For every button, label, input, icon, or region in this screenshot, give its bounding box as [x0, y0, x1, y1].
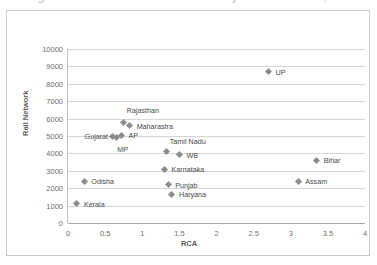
data-point-label: Karnataka — [172, 165, 205, 174]
gridline — [68, 153, 365, 154]
y-tick-label: 10000 — [42, 45, 63, 54]
x-tick-label: 1 — [140, 229, 144, 238]
data-point-label: Tamil Nadu — [170, 136, 206, 145]
data-point-label: Rajasthan — [127, 106, 159, 115]
x-tick-label: 4 — [363, 229, 367, 238]
y-tick-label: 6000 — [46, 114, 63, 123]
data-point-marker[interactable] — [126, 122, 133, 129]
data-point-marker[interactable] — [295, 178, 302, 185]
x-axis-title: RCA — [7, 239, 371, 248]
data-point-label: Kerala — [84, 199, 105, 208]
x-tick-label: 0 — [66, 229, 70, 238]
x-tick-label: 2 — [214, 229, 218, 238]
data-point-label: Maharastra — [137, 121, 173, 130]
data-point-marker[interactable] — [176, 151, 183, 158]
gridline — [68, 101, 365, 102]
gridline — [68, 206, 365, 207]
data-point-label: Odisha — [91, 177, 114, 186]
figure-caption-strip: Figure 4: Rail Network vs RCA of major I… — [0, 0, 377, 9]
data-point-label: MP — [117, 144, 128, 153]
y-tick-label: 8000 — [46, 79, 63, 88]
data-point-marker[interactable] — [165, 181, 172, 188]
gridline — [68, 84, 365, 85]
data-point-label: Assam — [305, 177, 327, 186]
gridline — [68, 223, 365, 224]
y-tick-label: 5000 — [46, 132, 63, 141]
y-tick-label: 1000 — [46, 201, 63, 210]
data-point-label: Punjab — [175, 180, 197, 189]
data-point-marker[interactable] — [265, 68, 272, 75]
data-point-marker[interactable] — [113, 134, 120, 141]
gridline — [68, 49, 365, 50]
data-point-label: Gujarat — [85, 132, 109, 141]
x-tick-label: 2.5 — [248, 229, 258, 238]
y-tick-label: 4000 — [46, 149, 63, 158]
figure-caption: Figure 4: Rail Network vs RCA of major I… — [28, 0, 377, 3]
y-tick-label: 0 — [59, 219, 63, 228]
data-point-marker[interactable] — [81, 178, 88, 185]
gridline — [68, 188, 365, 189]
data-point-label: Bihar — [324, 156, 341, 165]
y-tick-label: 3000 — [46, 166, 63, 175]
gridline — [68, 66, 365, 67]
data-point-marker[interactable] — [168, 191, 175, 198]
data-point-label: Haryana — [179, 190, 206, 199]
y-tick-label: 9000 — [46, 62, 63, 71]
x-tick-label: 1.5 — [174, 229, 184, 238]
x-tick-label: 3.5 — [323, 229, 333, 238]
gridline — [68, 119, 365, 120]
data-point-label: WB — [186, 151, 198, 160]
data-point-label: UP — [275, 67, 285, 76]
x-tick-label: 0.5 — [100, 229, 110, 238]
y-axis-title: Rail Network — [21, 91, 30, 136]
figure-frame: Rail Network 010002000300040005000600070… — [6, 10, 370, 256]
x-tick-label: 3 — [289, 229, 293, 238]
gridline — [68, 171, 365, 172]
data-point-marker[interactable] — [313, 157, 320, 164]
scatter-plot-area: 0100020003000400050006000700080009000100… — [67, 49, 365, 223]
data-point-label: AP — [128, 131, 138, 140]
y-tick-label: 7000 — [46, 97, 63, 106]
y-tick-label: 2000 — [46, 184, 63, 193]
